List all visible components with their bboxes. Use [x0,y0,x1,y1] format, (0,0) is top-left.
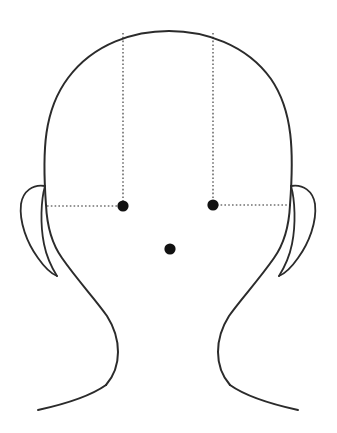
marker-point-right[interactable] [207,199,218,210]
marker-point-left[interactable] [117,200,128,211]
head-diagram-figure [0,0,337,433]
marker-point-center[interactable] [164,243,175,254]
head-diagram-svg [0,0,337,433]
diagram-background [0,0,337,433]
